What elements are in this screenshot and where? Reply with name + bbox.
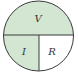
label-resistance: R bbox=[47, 46, 56, 57]
ohms-law-diagram: V I R bbox=[0, 0, 78, 83]
section-bottom-left bbox=[0, 35, 39, 83]
section-bottom-right bbox=[39, 35, 78, 83]
